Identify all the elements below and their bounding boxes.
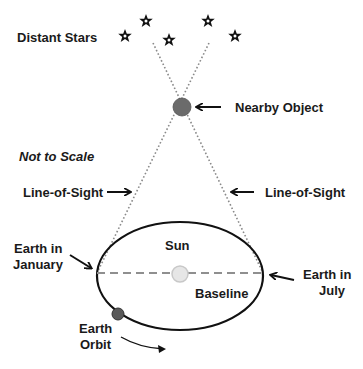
star-icon: [162, 33, 176, 46]
earth-july-label-line1: Earth in: [303, 267, 351, 282]
earth-january-label-line1: Earth in: [14, 241, 62, 256]
line-of-sight-right-label: Line-of-Sight: [265, 185, 346, 200]
sun-label: Sun: [165, 238, 190, 253]
sun-icon: [172, 266, 188, 282]
nearby-object-label: Nearby Object: [235, 100, 324, 115]
star-icon: [228, 29, 242, 42]
star-icon: [201, 14, 215, 27]
nearby-object-icon: [173, 98, 191, 116]
earth-orbit-label-line1: Earth: [79, 321, 112, 336]
star-icon: [118, 29, 132, 42]
earth-july-label-line2: July: [319, 283, 346, 298]
earth-orbit-label-line2: Orbit: [80, 337, 112, 352]
not-to-scale-label: Not to Scale: [19, 149, 94, 164]
earth-july-arrow-icon: [271, 275, 294, 280]
line-of-sight-left-label: Line-of-Sight: [23, 185, 104, 200]
distant-stars-label: Distant Stars: [17, 30, 97, 45]
line-of-sight-january: [97, 43, 209, 273]
distant-stars: [118, 14, 242, 46]
earth-january-label-line2: January: [13, 257, 64, 272]
baseline-label: Baseline: [195, 286, 248, 301]
earth-icon: [112, 308, 124, 320]
orbit-direction-arrowhead-icon: [158, 345, 166, 353]
orbit-direction-arrow-icon: [121, 337, 164, 349]
parallax-diagram: Distant Stars Nearby Object Not to Scale…: [0, 0, 363, 369]
star-icon: [139, 14, 153, 27]
earth-january-arrow-icon: [70, 255, 91, 268]
